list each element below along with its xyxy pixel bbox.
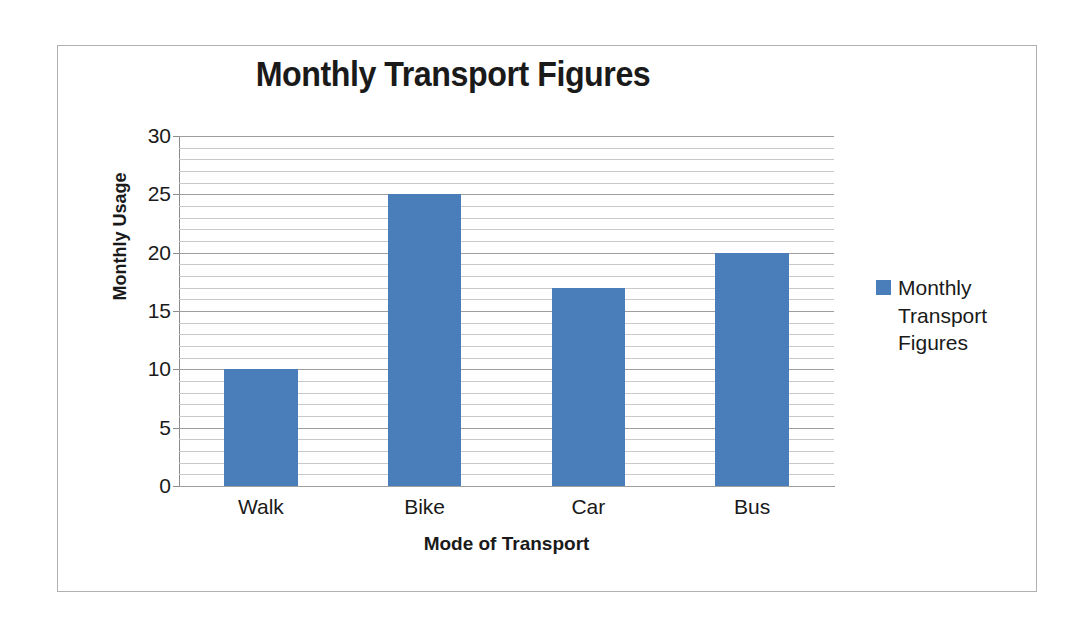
bar-slot (343, 136, 507, 486)
bar-slot (507, 136, 671, 486)
y-tick-label: 0 (125, 474, 171, 498)
y-tick-mark (173, 194, 179, 195)
plot-area (179, 136, 834, 486)
bar-slot (179, 136, 343, 486)
legend-color-swatch (876, 280, 891, 295)
y-tick-mark (173, 136, 179, 137)
chart-frame: Monthly Transport Figures Monthly Usage … (57, 45, 1037, 592)
chart-legend: Monthly Transport Figures (876, 274, 1026, 357)
x-tick-label: Walk (179, 495, 343, 519)
y-tick-mark (173, 369, 179, 370)
y-tick-label: 20 (125, 241, 171, 265)
x-tick-label: Car (507, 495, 671, 519)
x-tick-label: Bike (343, 495, 507, 519)
legend-entry-label: Monthly Transport Figures (898, 274, 1026, 357)
bar-bike[interactable] (388, 194, 462, 486)
x-axis-tick-labels: WalkBikeCarBus (179, 495, 834, 529)
x-tick-label: Bus (670, 495, 834, 519)
y-tick-label: 30 (125, 124, 171, 148)
y-tick-label: 10 (125, 357, 171, 381)
x-axis-title: Mode of Transport (179, 533, 834, 555)
bar-slot (670, 136, 834, 486)
bar-walk[interactable] (224, 369, 298, 486)
y-tick-mark (173, 486, 179, 487)
y-axis-tick-labels: 051015202530 (113, 136, 171, 487)
y-tick-mark (173, 311, 179, 312)
y-tick-label: 15 (125, 299, 171, 323)
y-tick-label: 25 (125, 182, 171, 206)
gridline-major (179, 486, 834, 487)
y-tick-mark (173, 428, 179, 429)
y-tick-label: 5 (125, 416, 171, 440)
y-tick-mark (173, 253, 179, 254)
chart-title: Monthly Transport Figures (90, 54, 817, 94)
bar-bus[interactable] (715, 253, 789, 486)
bar-car[interactable] (552, 288, 626, 486)
